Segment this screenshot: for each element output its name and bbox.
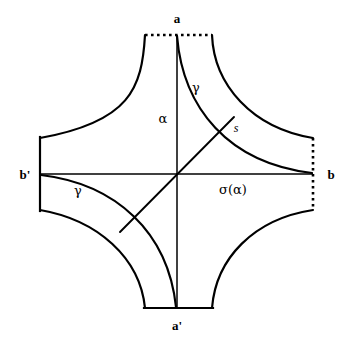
lower-left-outer-arc [40,210,145,308]
vertex-label-a-prime: a' [172,319,182,332]
arc-label-sigma-alpha: σ(α) [219,183,247,196]
diagram-canvas [0,0,355,340]
vertex-label-b: b [327,168,334,181]
segment-label-s: s [234,122,239,134]
upper-right-outer-arc [212,35,313,138]
lower-right-outer-arc [212,210,313,308]
arc-label-gamma-lower: γ [74,184,82,197]
figure-container: a a' b' b α σ(α) γ γ s [0,0,355,340]
vertex-label-a: a [174,12,181,25]
arc-label-gamma-upper: γ [192,81,200,94]
vertex-label-b-prime: b' [20,168,31,181]
upper-left-outer-arc [40,35,145,138]
arc-label-alpha: α [159,112,168,125]
